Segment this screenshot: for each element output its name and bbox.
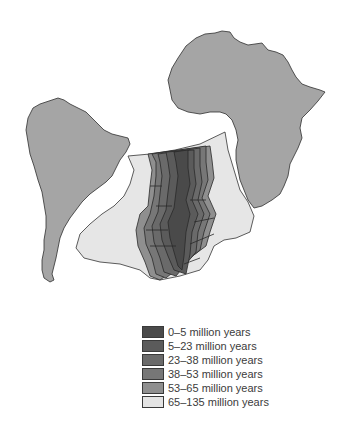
legend-label: 23–38 million years <box>168 353 263 367</box>
legend-swatch <box>142 396 164 408</box>
legend-item-38-53: 38–53 million years <box>142 367 269 381</box>
legend-swatch <box>142 340 164 352</box>
legend-item-23-38: 23–38 million years <box>142 353 269 367</box>
legend-label: 65–135 million years <box>168 395 269 409</box>
legend-item-5-23: 5–23 million years <box>142 339 269 353</box>
legend-item-65-135: 65–135 million years <box>142 395 269 409</box>
legend-label: 0–5 million years <box>168 325 251 339</box>
seafloor-map <box>0 0 346 300</box>
legend-swatch <box>142 326 164 338</box>
legend-item-0-5: 0–5 million years <box>142 325 269 339</box>
legend: 0–5 million years 5–23 million years 23–… <box>142 325 269 409</box>
legend-swatch <box>142 368 164 380</box>
legend-label: 5–23 million years <box>168 339 257 353</box>
legend-label: 53–65 million years <box>168 381 263 395</box>
legend-item-53-65: 53–65 million years <box>142 381 269 395</box>
legend-swatch <box>142 354 164 366</box>
legend-label: 38–53 million years <box>168 367 263 381</box>
legend-swatch <box>142 382 164 394</box>
